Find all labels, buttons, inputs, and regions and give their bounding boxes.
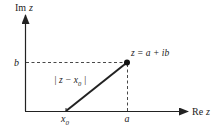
complex-plane-diagram: Imz Rez b a x0 z = a + ib | z − x0 | [0, 0, 211, 132]
b-label: b [14, 57, 19, 68]
distance-segment [66, 63, 127, 112]
imaginary-axis-label: Imz [15, 2, 33, 13]
distance-label: | z − x0 | [54, 75, 86, 87]
x0-label: x0 [60, 113, 69, 127]
a-label: a [125, 113, 130, 124]
real-axis-label: Rez [192, 106, 210, 117]
point-z [124, 60, 130, 66]
point-z-label: z = a + ib [130, 48, 169, 58]
